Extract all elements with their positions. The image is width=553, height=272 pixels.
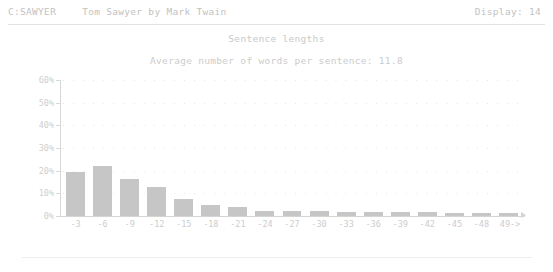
bar (228, 207, 247, 216)
bar (499, 213, 518, 216)
bar (120, 179, 139, 216)
x-axis-line (60, 216, 525, 217)
bar-series (62, 80, 522, 216)
x-axis-tick-label: -6 (97, 219, 107, 230)
x-axis-tick-label: -48 (474, 219, 489, 230)
x-axis-labels: -3-6-9-12-15-18-21-24-27-30-33-36-39-42-… (62, 219, 527, 233)
x-axis-tick-label: 49-> (500, 219, 520, 230)
x-axis-tick-label: -18 (203, 219, 218, 230)
y-axis-tick-label: 40% (39, 121, 54, 130)
x-axis-tick-label: -39 (393, 219, 408, 230)
x-axis-tick-label: -30 (311, 219, 326, 230)
y-axis-tick-label: 0% (44, 212, 54, 221)
bar (66, 172, 85, 216)
bar (418, 212, 437, 216)
bar-chart: 60%50%40%30%20%10%0% -3-6-9-12-15-18-21-… (0, 0, 553, 272)
bar (283, 211, 302, 216)
bar (255, 211, 274, 216)
bar (174, 199, 193, 216)
y-axis-tick-label: 60% (39, 76, 54, 85)
bar (310, 211, 329, 216)
y-axis-tick-label: 20% (39, 166, 54, 175)
x-axis-tick-label: -9 (125, 219, 135, 230)
x-axis-tick-label: -36 (365, 219, 380, 230)
y-axis-labels: 60%50%40%30%20%10%0% (26, 79, 54, 221)
bar (445, 213, 464, 216)
bar (364, 212, 383, 216)
y-axis-line (60, 80, 61, 217)
x-axis-tick-label: -3 (70, 219, 80, 230)
y-axis-tick-label: 50% (39, 98, 54, 107)
bar (391, 212, 410, 216)
x-axis-tick-label: -33 (338, 219, 353, 230)
x-axis-tick-label: -45 (447, 219, 462, 230)
bar (472, 213, 491, 216)
y-axis-tick-label: 30% (39, 144, 54, 153)
x-axis-tick-label: -21 (230, 219, 245, 230)
bar (337, 212, 356, 216)
footer-divider (22, 257, 532, 258)
y-axis-tick-label: 10% (39, 189, 54, 198)
bar (147, 187, 166, 216)
x-axis-tick-label: -42 (420, 219, 435, 230)
bar (93, 166, 112, 216)
bar (201, 205, 220, 216)
x-axis-tick-label: -27 (284, 219, 299, 230)
x-axis-tick-label: -15 (176, 219, 191, 230)
x-axis-tick-label: -12 (149, 219, 164, 230)
x-axis-tick-label: -24 (257, 219, 272, 230)
